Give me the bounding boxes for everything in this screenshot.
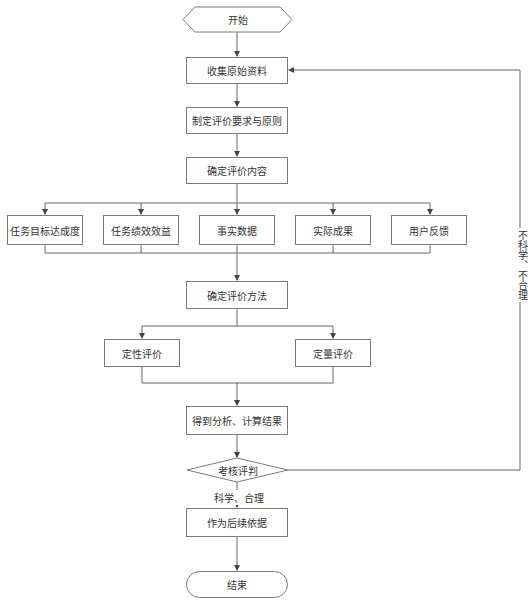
method-item-label: 定性评价 xyxy=(122,346,162,361)
step-define-method: 确定评价方法 xyxy=(186,281,288,309)
edge-label-yes: 科学、合理 xyxy=(214,490,264,505)
step-method-label: 确定评价方法 xyxy=(207,288,267,303)
step-set-requirements: 制定评价要求与原则 xyxy=(186,107,288,134)
start-label: 开始 xyxy=(228,12,248,27)
content-item-goal-achievement: 任务目标达成度 xyxy=(7,215,83,245)
step-basis: 作为后续依据 xyxy=(186,508,288,537)
step-basis-label: 作为后续依据 xyxy=(207,515,267,530)
step-collect-data: 收集原始资料 xyxy=(186,57,288,84)
step-content-label: 确定评价内容 xyxy=(207,163,267,178)
decision-label: 考核评判 xyxy=(218,463,258,478)
edge-label-no-text: 不科学、不合理 xyxy=(516,230,527,300)
end-node: 结束 xyxy=(186,571,288,598)
step-define-content: 确定评价内容 xyxy=(186,157,288,184)
step-collect-label: 收集原始资料 xyxy=(207,63,267,78)
end-label: 结束 xyxy=(227,577,247,592)
step-results-label: 得到分析、计算结果 xyxy=(192,413,282,428)
content-item-label: 实际成果 xyxy=(313,223,353,238)
method-item-label: 定量评价 xyxy=(313,346,353,361)
content-item-facts: 事实数据 xyxy=(199,215,275,245)
decision-node: 考核评判 xyxy=(187,458,288,482)
edge-label-no: 不科学、不合理 xyxy=(514,228,529,302)
content-item-results: 实际成果 xyxy=(295,215,371,245)
step-requirements-label: 制定评价要求与原则 xyxy=(192,113,282,128)
method-quantitative: 定量评价 xyxy=(295,339,371,367)
start-node: 开始 xyxy=(183,7,292,32)
method-qualitative: 定性评价 xyxy=(104,339,180,367)
content-item-label: 任务绩效效益 xyxy=(111,223,171,238)
content-item-user-feedback: 用户反馈 xyxy=(391,215,467,245)
edge-label-yes-text: 科学、合理 xyxy=(214,493,264,504)
step-get-results: 得到分析、计算结果 xyxy=(186,406,288,435)
content-item-label: 用户反馈 xyxy=(409,223,449,238)
content-item-performance: 任务绩效效益 xyxy=(103,215,179,245)
content-item-label: 任务目标达成度 xyxy=(10,223,80,238)
content-item-label: 事实数据 xyxy=(217,223,257,238)
